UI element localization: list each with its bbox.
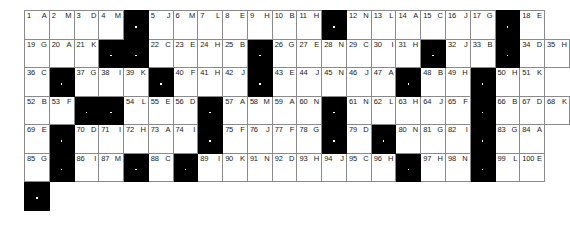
grid-cell-letter[interactable]: 92D xyxy=(272,153,297,182)
grid-cell-letter[interactable]: 4M xyxy=(99,11,124,40)
grid-cell-letter[interactable]: 65F xyxy=(446,96,471,125)
grid-cell-letter[interactable]: 89I xyxy=(198,153,223,182)
grid-cell-letter[interactable]: 7L xyxy=(198,11,223,40)
grid-cell-letter[interactable]: 95C xyxy=(346,153,371,182)
grid-cell-letter[interactable]: 47A xyxy=(371,68,396,97)
grid-cell-letter[interactable]: 32J xyxy=(446,39,471,68)
grid-cell-letter[interactable]: 56D xyxy=(173,96,198,125)
grid-cell-letter[interactable]: 57A xyxy=(223,96,248,125)
grid-cell-letter[interactable]: 84A xyxy=(520,125,545,154)
grid-cell-letter[interactable]: 20A xyxy=(49,39,74,68)
grid-cell-letter[interactable]: 48B xyxy=(421,68,446,97)
grid-cell-letter[interactable]: 70D xyxy=(74,125,99,154)
grid-cell-letter[interactable]: 59A xyxy=(272,96,297,125)
grid-cell-letter[interactable]: 87M xyxy=(99,153,124,182)
grid-cell-letter[interactable]: 79D xyxy=(346,125,371,154)
grid-cell-letter[interactable]: 16J xyxy=(446,11,471,40)
grid-cell-letter[interactable]: 72H xyxy=(124,125,149,154)
grid-cell-letter[interactable]: 46J xyxy=(346,68,371,97)
grid-cell-letter[interactable]: 97H xyxy=(421,153,446,182)
grid-cell-letter[interactable]: 63H xyxy=(396,96,421,125)
grid-cell-letter[interactable]: 66B xyxy=(495,96,520,125)
grid-cell-letter[interactable]: 22C xyxy=(148,39,173,68)
grid-cell-letter[interactable]: 35H xyxy=(545,39,570,68)
grid-cell-letter[interactable]: 51K xyxy=(520,68,545,97)
grid-cell-letter[interactable]: 42J xyxy=(223,68,248,97)
grid-cell-letter[interactable]: 49H xyxy=(446,68,471,97)
grid-cell-letter[interactable]: 13L xyxy=(371,11,396,40)
grid-cell-letter[interactable]: 67D xyxy=(520,96,545,125)
grid-cell-letter[interactable]: 100E xyxy=(520,153,545,182)
grid-cell-letter[interactable]: 62L xyxy=(371,96,396,125)
grid-cell-letter[interactable]: 27E xyxy=(297,39,322,68)
grid-cell-letter[interactable]: 71I xyxy=(99,125,124,154)
grid-cell-letter[interactable]: 98N xyxy=(446,153,471,182)
acrostic-grid[interactable]: 1A2M3D4M5J6M7L8E9H10B11H12N13L14A15C16J1… xyxy=(24,10,570,211)
grid-cell-letter[interactable]: 18E xyxy=(520,11,545,40)
grid-cell-letter[interactable]: 80N xyxy=(396,125,421,154)
grid-cell-letter[interactable]: 96H xyxy=(371,153,396,182)
grid-cell-letter[interactable]: 12N xyxy=(346,11,371,40)
grid-cell-letter[interactable]: 6M xyxy=(173,11,198,40)
grid-cell-letter[interactable]: 45N xyxy=(322,68,347,97)
grid-cell-letter[interactable]: 11H xyxy=(297,11,322,40)
grid-cell-letter[interactable]: 1A xyxy=(25,11,50,40)
grid-cell-letter[interactable]: 90K xyxy=(223,153,248,182)
grid-cell-letter[interactable]: 64J xyxy=(421,96,446,125)
grid-cell-letter[interactable]: 3D xyxy=(74,11,99,40)
grid-cell-letter[interactable]: 69E xyxy=(25,125,50,154)
grid-cell-letter[interactable]: 54L xyxy=(124,96,149,125)
grid-cell-letter[interactable]: 81G xyxy=(421,125,446,154)
grid-cell-letter[interactable]: 30I xyxy=(371,39,396,68)
grid-cell-letter[interactable]: 75F xyxy=(223,125,248,154)
grid-cell-letter[interactable]: 41H xyxy=(198,68,223,97)
grid-cell-letter[interactable]: 31H xyxy=(396,39,421,68)
grid-cell-letter[interactable]: 52B xyxy=(25,96,50,125)
grid-cell-letter[interactable]: 77F xyxy=(272,125,297,154)
grid-cell-letter[interactable]: 55E xyxy=(148,96,173,125)
grid-cell-letter[interactable]: 82I xyxy=(446,125,471,154)
grid-cell-letter[interactable]: 9H xyxy=(247,11,272,40)
grid-cell-letter[interactable]: 44J xyxy=(297,68,322,97)
grid-cell-letter[interactable]: 24H xyxy=(198,39,223,68)
grid-cell-letter[interactable]: 60N xyxy=(297,96,322,125)
grid-cell-letter[interactable]: 50H xyxy=(495,68,520,97)
grid-cell-letter[interactable]: 14A xyxy=(396,11,421,40)
grid-cell-letter[interactable]: 73A xyxy=(148,125,173,154)
grid-cell-letter[interactable]: 34D xyxy=(520,39,545,68)
grid-cell-letter[interactable]: 76J xyxy=(247,125,272,154)
grid-cell-letter[interactable]: 61N xyxy=(346,96,371,125)
grid-cell-letter[interactable]: 94J xyxy=(322,153,347,182)
grid-cell-letter[interactable]: 53F xyxy=(49,96,74,125)
grid-cell-letter[interactable]: 86I xyxy=(74,153,99,182)
grid-cell-letter[interactable]: 43E xyxy=(272,68,297,97)
grid-cell-letter[interactable]: 36C xyxy=(25,68,50,97)
grid-cell-letter[interactable]: 28N xyxy=(322,39,347,68)
grid-cell-letter[interactable]: 8E xyxy=(223,11,248,40)
grid-cell-letter[interactable]: 29C xyxy=(346,39,371,68)
grid-cell-letter[interactable]: 68K xyxy=(545,96,570,125)
grid-cell-letter[interactable]: 93H xyxy=(297,153,322,182)
grid-cell-letter[interactable]: 2M xyxy=(49,11,74,40)
grid-cell-letter[interactable]: 5J xyxy=(148,11,173,40)
grid-cell-letter[interactable]: 99L xyxy=(495,153,520,182)
grid-cell-letter[interactable]: 78G xyxy=(297,125,322,154)
grid-cell-letter[interactable]: 25B xyxy=(223,39,248,68)
grid-cell-letter[interactable]: 23E xyxy=(173,39,198,68)
grid-cell-letter[interactable]: 58M xyxy=(247,96,272,125)
grid-cell-letter[interactable]: 37G xyxy=(74,68,99,97)
grid-cell-letter[interactable]: 21K xyxy=(74,39,99,68)
grid-cell-letter[interactable]: 38I xyxy=(99,68,124,97)
grid-cell-letter[interactable]: 26G xyxy=(272,39,297,68)
grid-cell-letter[interactable]: 15C xyxy=(421,11,446,40)
grid-cell-letter[interactable]: 33B xyxy=(470,39,495,68)
grid-cell-letter[interactable]: 88C xyxy=(148,153,173,182)
grid-cell-letter[interactable]: 83G xyxy=(495,125,520,154)
grid-cell-letter[interactable]: 74I xyxy=(173,125,198,154)
grid-cell-letter[interactable]: 39K xyxy=(124,68,149,97)
grid-cell-letter[interactable]: 40F xyxy=(173,68,198,97)
grid-cell-letter[interactable]: 91N xyxy=(247,153,272,182)
grid-cell-letter[interactable]: 85G xyxy=(25,153,50,182)
grid-cell-letter[interactable]: 19G xyxy=(25,39,50,68)
grid-cell-letter[interactable]: 17G xyxy=(470,11,495,40)
